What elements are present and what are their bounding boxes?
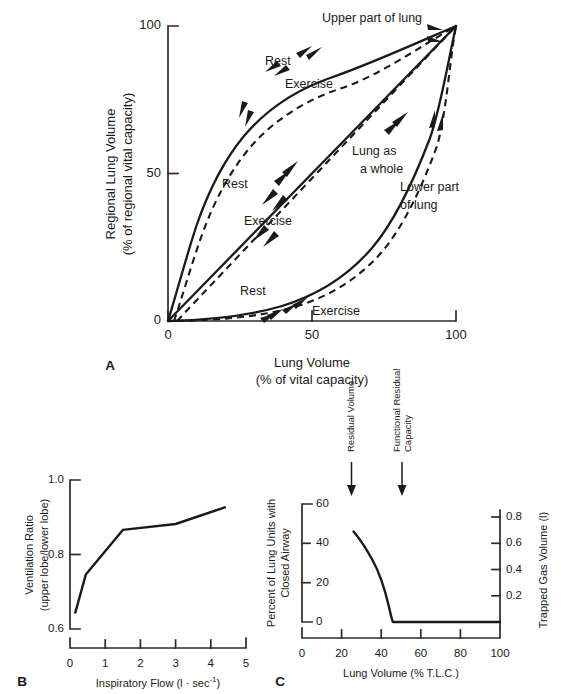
panel-c-y-ticklabel-40: 40 bbox=[316, 536, 329, 548]
panel-a-arrow-whole-rest bbox=[262, 189, 288, 211]
panel-a-y-axis-subtitle: (% of regional vital capacity) bbox=[120, 93, 135, 256]
panel-a-curve-whole-rest bbox=[168, 26, 456, 321]
panel-c-annotation-frc-label-line2: Capacity bbox=[402, 415, 413, 452]
panel-b-letter: B bbox=[17, 674, 27, 689]
panel-a-x-ticklabel-50: 50 bbox=[305, 327, 319, 342]
panel-b-x-axis-title-tail: ) bbox=[217, 677, 221, 689]
panel-c-y-axis-title: Percent of Lung Units with bbox=[265, 499, 277, 627]
panel-a-annot-rest-upper: Rest bbox=[265, 54, 291, 68]
panel-b-curve-ventilation-ratio bbox=[75, 507, 225, 612]
panel-c-x-ticklabel-80: 80 bbox=[454, 647, 467, 659]
panel-c-chart: 60 40 20 0 0.8 0.6 0.4 0.2 0 20 40 60 80… bbox=[260, 400, 561, 694]
panel-a-x-ticklabel-100: 100 bbox=[445, 327, 467, 342]
panel-c-letter: C bbox=[275, 674, 285, 689]
panel-c-x-ticklabel-0: 0 bbox=[299, 647, 305, 659]
panel-a-arrow-upper-top bbox=[296, 46, 322, 60]
panel-c-y-axis-title-right: Trapped Gas Volume (l) bbox=[537, 512, 549, 628]
panel-c-y-ticklabel-right-06: 0.6 bbox=[506, 536, 522, 548]
panel-a-annot-lower-part: Lower part bbox=[400, 180, 460, 194]
panel-b-chart: 1.0 0.8 0.6 0 1 2 3 4 5 Ventilation Rati… bbox=[0, 400, 280, 694]
panel-b-x-axis bbox=[70, 638, 246, 648]
panel-b-x-ticklabel-3: 3 bbox=[172, 657, 178, 669]
panel-c-annotation-residual-volume: Residual Volume bbox=[345, 381, 356, 496]
panel-b-y-axis-subtitle: (upper lobe/lower lobe) bbox=[38, 499, 50, 612]
panel-c-x-axis bbox=[302, 628, 500, 638]
panel-c-y-ticklabel-20: 20 bbox=[316, 576, 329, 588]
figure-root: 100 50 0 0 50 100 Regional Lung Volume (… bbox=[0, 0, 561, 694]
panel-a-annot-of-lung: of lung bbox=[400, 198, 438, 212]
panel-c-x-axis-title: Lung Volume (% T.L.C.) bbox=[343, 667, 459, 679]
panel-c-y-ticklabel-right-08: 0.8 bbox=[506, 510, 522, 522]
panel-a-chart: 100 50 0 0 50 100 Regional Lung Volume (… bbox=[0, 0, 561, 400]
panel-c-arrow-head-residual-volume bbox=[347, 485, 356, 496]
panel-a-annot-a-whole: a whole bbox=[360, 162, 403, 176]
panel-b-x-axis-title: Inspiratory Flow (l · sec-1) bbox=[96, 675, 221, 689]
panel-c-arrow-head-frc bbox=[398, 485, 407, 496]
panel-c-annotation-frc-label-line1: Functional Residual bbox=[391, 369, 402, 452]
panel-c-x-ticklabel-20: 20 bbox=[335, 647, 348, 659]
panel-b-y-ticklabel-06: 0.6 bbox=[48, 622, 64, 634]
panel-b-y-axis-title: Ventilation Ratio bbox=[23, 515, 35, 595]
panel-a-y-ticklabel-100: 100 bbox=[139, 17, 161, 32]
panel-b-x-ticklabel-0: 0 bbox=[67, 657, 73, 669]
panel-b-x-axis-title-main: Inspiratory Flow (l · sec bbox=[96, 677, 210, 689]
panel-b-y-ticklabel-08: 0.8 bbox=[48, 548, 64, 560]
panel-c-curve-closed-airway bbox=[354, 532, 501, 623]
panel-a-annot-rest-lower: Rest bbox=[240, 284, 266, 298]
panel-a-letter: A bbox=[105, 358, 115, 373]
panel-a-annot-exercise-lower: Exercise bbox=[312, 304, 360, 318]
panel-b-x-ticklabel-2: 2 bbox=[137, 657, 143, 669]
panel-a-y-axis-title: Regional Lung Volume bbox=[103, 109, 118, 240]
panel-b-x-ticklabel-4: 4 bbox=[208, 657, 215, 669]
panel-c-y-ticklabel-60: 60 bbox=[316, 497, 329, 509]
panel-a-annot-exercise-upper: Exercise bbox=[285, 77, 333, 91]
panel-c-x-ticklabel-60: 60 bbox=[414, 647, 427, 659]
panel-a-arrow-upper-exercise bbox=[239, 101, 254, 127]
panel-a-annot-rest-whole: Rest bbox=[222, 177, 248, 191]
panel-a-annot-upper-part-of-lung: Upper part of lung bbox=[322, 11, 422, 25]
panel-b-x-ticklabel-5: 5 bbox=[243, 657, 249, 669]
panel-b-x-ticklabel-1: 1 bbox=[102, 657, 108, 669]
panel-a-arrow-whole-mid bbox=[274, 161, 298, 186]
panel-c-y-ticklabel-right-02: 0.2 bbox=[506, 589, 522, 601]
panel-c-annotation-residual-volume-label: Residual Volume bbox=[345, 381, 356, 452]
panel-a-y-ticklabel-50: 50 bbox=[147, 165, 161, 180]
panel-c-y-axis-left bbox=[302, 504, 312, 622]
panel-a-y-ticklabel-0: 0 bbox=[154, 312, 161, 327]
panel-a-annot-lung-as: Lung as bbox=[352, 144, 396, 158]
panel-c-x-ticklabel-40: 40 bbox=[375, 647, 388, 659]
panel-b-y-ticklabel-10: 1.0 bbox=[48, 473, 64, 485]
panel-a-arrow-whole-upper bbox=[384, 112, 408, 135]
panel-c-y-ticklabel-0: 0 bbox=[316, 615, 322, 627]
panel-c-y-axis-subtitle: Closed Airway bbox=[279, 528, 291, 598]
panel-a-x-ticklabel-0: 0 bbox=[164, 327, 171, 342]
panel-a-x-axis-title: Lung Volume bbox=[274, 355, 350, 370]
panel-c-y-ticklabel-right-04: 0.4 bbox=[506, 563, 523, 575]
panel-c-x-ticklabel-100: 100 bbox=[490, 647, 509, 659]
panel-a-annot-exercise-whole: Exercise bbox=[244, 214, 292, 228]
